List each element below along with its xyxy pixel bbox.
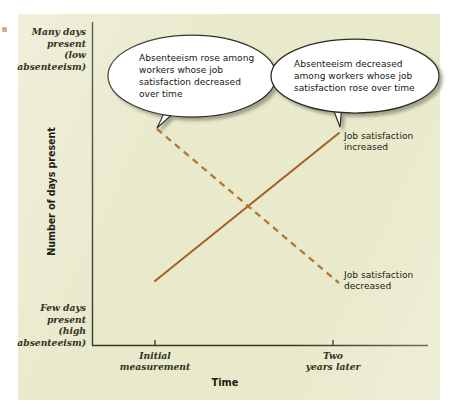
series-label-satisfaction-increased: Job satisfaction increased (344, 131, 413, 153)
series-line-satisfaction-decreased (157, 129, 339, 283)
callout-absenteeism-rose: Absenteeism rose among workers whose job… (108, 36, 276, 122)
series-label-satisfaction-decreased: Job satisfaction decreased (344, 270, 413, 292)
y-axis-label-top: Many days present (low absenteeism) (12, 26, 86, 72)
callout-absenteeism-decreased: Absenteeism decreased among workers whos… (272, 40, 442, 118)
figure-container: Many days present (low absenteeism) Few … (0, 0, 451, 410)
x-axis-title: Time (160, 377, 290, 388)
x-tick-label-two-years-later: Two years later (278, 350, 388, 373)
callout-absenteeism-decreased-text: Absenteeism decreased among workers whos… (294, 58, 428, 94)
x-tick-label-initial-measurement: Initial measurement (100, 350, 210, 373)
callout-absenteeism-rose-text: Absenteeism rose among workers whose job… (139, 52, 265, 100)
y-axis-title: Number of days present (46, 112, 57, 272)
y-axis-label-bottom: Few days present (high absenteeism) (12, 302, 86, 348)
